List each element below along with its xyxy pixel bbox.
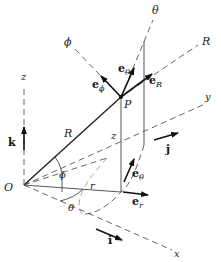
e-theta-label: eθ	[118, 62, 130, 77]
x-axis	[24, 185, 172, 250]
R-axis-label: R	[201, 35, 210, 48]
e-theta-lower-label: eθ	[132, 167, 144, 182]
e-phi-label: eϕ	[92, 78, 105, 93]
phi-angle-label: ϕ	[59, 169, 66, 180]
z-axis-label: z	[20, 71, 27, 82]
phi-axis-label: ϕ	[64, 36, 72, 49]
r-segment-label: r	[90, 180, 96, 191]
R-segment-label: R	[63, 127, 72, 140]
theta-angle-arc	[60, 189, 83, 201]
e-R-label: eR	[149, 74, 162, 89]
z-segment-label: z	[110, 130, 117, 141]
radius-line	[24, 97, 121, 185]
point-label: P	[123, 98, 132, 111]
y-axis-label: y	[204, 91, 211, 102]
i-label: i	[108, 234, 112, 247]
spherical-coordinates-diagram: O P z y x R θ ϕ R r z ϕ θ k j i eϕ eθ eR…	[0, 0, 221, 262]
x-axis-label: x	[174, 248, 180, 259]
origin-label: O	[4, 181, 13, 194]
point-P-marker	[119, 95, 123, 99]
j-unit-vector-arrow	[154, 133, 178, 140]
j-label: j	[165, 143, 170, 156]
k-label: k	[8, 136, 16, 149]
theta-angle-label: θ	[68, 202, 74, 213]
y-axis	[24, 104, 205, 185]
theta-axis-label: θ	[152, 4, 159, 17]
e-r-label: er	[132, 195, 144, 210]
